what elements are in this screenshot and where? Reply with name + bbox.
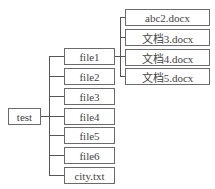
node-label: 文档5.docx [142, 69, 194, 85]
node-label: 文档4.docx [142, 50, 194, 66]
node-doc4-docx: 文档4.docx [125, 49, 210, 66]
node-file3: file3 [64, 88, 115, 105]
node-test: test [8, 108, 41, 125]
node-label: file1 [79, 51, 99, 63]
node-file4: file4 [64, 108, 115, 125]
node-label: file2 [79, 71, 99, 83]
node-label: test [17, 111, 32, 123]
node-label: file3 [79, 91, 99, 103]
node-label: file5 [79, 130, 99, 142]
node-file6: file6 [64, 147, 115, 164]
node-label: file4 [79, 111, 99, 123]
node-label: file6 [79, 150, 99, 162]
node-file5: file5 [64, 127, 115, 144]
node-doc3-docx: 文档3.docx [125, 29, 210, 46]
node-file1: file1 [64, 48, 115, 65]
node-label: city.txt [74, 170, 104, 182]
node-file2: file2 [64, 68, 115, 85]
node-label: abc2.docx [145, 12, 190, 24]
node-city-txt: city.txt [64, 167, 115, 184]
node-abc2-docx: abc2.docx [125, 9, 210, 26]
node-doc5-docx: 文档5.docx [125, 68, 210, 85]
node-label: 文档3.docx [142, 30, 194, 46]
